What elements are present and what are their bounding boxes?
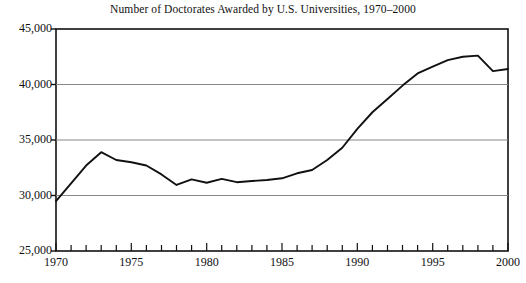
y-tick-label-45000: 45,000 — [0, 21, 52, 36]
x-tick-label-1995: 1995 — [413, 255, 453, 270]
x-tick-label-1980: 1980 — [187, 255, 227, 270]
x-tick-label-1970: 1970 — [36, 255, 76, 270]
x-tick-label-1990: 1990 — [337, 255, 377, 270]
x-tick-label-1985: 1985 — [262, 255, 302, 270]
line-chart-plot — [0, 0, 526, 283]
y-tick-label-35000: 35,000 — [0, 132, 52, 147]
x-tick-label-2000: 2000 — [488, 255, 526, 270]
chart-figure: Number of Doctorates Awarded by U.S. Uni… — [0, 0, 526, 283]
y-tick-label-40000: 40,000 — [0, 77, 52, 92]
y-tick-label-30000: 30,000 — [0, 188, 52, 203]
x-tick-label-1975: 1975 — [111, 255, 151, 270]
